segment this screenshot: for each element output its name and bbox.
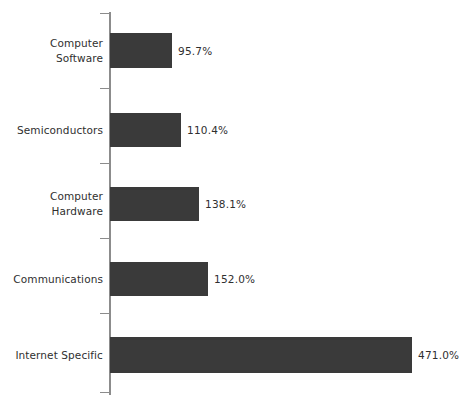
bar-value-label: 110.4% <box>187 124 228 136</box>
bar-value-label: 471.0% <box>418 349 459 361</box>
axis-tick-4 <box>100 313 109 314</box>
axis-tick-2 <box>100 163 109 164</box>
category-label: Computer Hardware <box>0 189 103 219</box>
bar <box>110 337 412 373</box>
bar-value-label: 138.1% <box>205 198 246 210</box>
bar-value-label: 152.0% <box>214 273 255 285</box>
axis-tick-top <box>100 13 109 14</box>
category-label: Communications <box>0 272 103 287</box>
bar-value-label: 95.7% <box>178 45 212 57</box>
category-label: Computer Software <box>0 36 103 66</box>
axis-tick-bottom <box>100 392 109 393</box>
bar <box>110 262 208 296</box>
category-label: Semiconductors <box>0 123 103 138</box>
bar <box>110 33 172 68</box>
axis-tick-3 <box>100 238 109 239</box>
bar <box>110 187 199 221</box>
axis-tick-1 <box>100 88 109 89</box>
bar <box>110 113 181 147</box>
bar-chart: Computer Software 95.7% Semiconductors 1… <box>0 0 471 411</box>
category-label: Internet Specific <box>0 348 103 363</box>
